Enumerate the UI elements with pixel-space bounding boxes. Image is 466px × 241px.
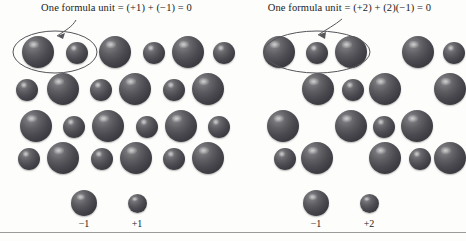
- cation-sphere: [163, 79, 185, 101]
- anion-sphere: [369, 142, 401, 174]
- anion-sphere: [22, 36, 54, 68]
- anion-sphere: [263, 36, 295, 68]
- cation-sphere: [18, 148, 40, 170]
- ionic-lattice-figure: One formula unit = (+1) + (−1) = 0: [0, 0, 466, 241]
- anion-sphere: [434, 73, 466, 105]
- anion-sphere: [192, 142, 224, 174]
- cation-sphere: [409, 148, 431, 170]
- cation-sphere: [213, 42, 235, 64]
- cation-sphere: [91, 148, 113, 170]
- anion-sphere: [47, 73, 79, 105]
- anion-sphere: [71, 190, 97, 216]
- cation-sphere: [306, 42, 328, 64]
- anion-sphere: [192, 73, 224, 105]
- anion-sphere: [99, 36, 131, 68]
- cation-sphere: [163, 148, 185, 170]
- anion-sphere: [20, 110, 52, 142]
- cation-sphere: [63, 116, 85, 138]
- anion-sphere: [402, 36, 434, 68]
- cation-sphere: [360, 194, 379, 213]
- cation-sphere: [136, 116, 158, 138]
- caption-left: One formula unit = (+1) + (−1) = 0: [0, 2, 233, 13]
- cation-sphere: [443, 42, 465, 64]
- anion-sphere: [369, 73, 401, 105]
- legend-label-anion-left: −1: [64, 218, 104, 229]
- anion-sphere: [302, 73, 334, 105]
- cation-sphere: [90, 79, 112, 101]
- bottom-divider: [0, 232, 466, 233]
- cation-sphere: [128, 194, 147, 213]
- anion-sphere: [401, 110, 433, 142]
- cation-sphere: [373, 116, 395, 138]
- anion-sphere: [335, 36, 367, 68]
- anion-sphere: [434, 142, 466, 174]
- panel-one-to-two: One formula unit = (+2) + (2)(−1) = 0 −1: [233, 0, 466, 241]
- cation-sphere: [16, 79, 38, 101]
- legend-label-cation-left: +1: [117, 218, 157, 229]
- anion-sphere: [301, 142, 333, 174]
- anion-sphere: [120, 142, 152, 174]
- anion-sphere: [267, 110, 299, 142]
- panel-one-to-one: One formula unit = (+1) + (−1) = 0: [0, 0, 233, 241]
- anion-sphere: [165, 110, 197, 142]
- cation-sphere: [66, 42, 88, 64]
- anion-sphere: [47, 142, 79, 174]
- legend-label-anion-right: −1: [296, 218, 336, 229]
- caption-right: One formula unit = (+2) + (2)(−1) = 0: [233, 2, 466, 13]
- anion-sphere: [303, 190, 329, 216]
- legend-label-cation-right: +2: [349, 218, 389, 229]
- anion-sphere: [172, 36, 204, 68]
- cation-sphere: [342, 79, 364, 101]
- anion-sphere: [92, 110, 124, 142]
- cation-sphere: [208, 116, 230, 138]
- anion-sphere: [335, 110, 367, 142]
- anion-sphere: [119, 73, 151, 105]
- cation-sphere: [143, 42, 165, 64]
- cation-sphere: [274, 148, 296, 170]
